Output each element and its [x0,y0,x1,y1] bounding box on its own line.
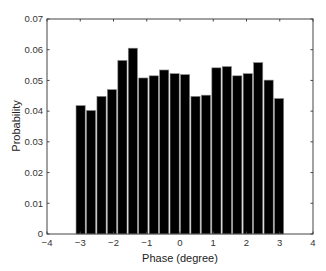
histogram-bar [139,78,148,234]
y-tick-label: 0.03 [25,136,44,147]
histogram-chart: −4−3−2−101234 00.010.020.030.040.050.060… [0,0,326,271]
x-tick-label: −4 [42,237,53,248]
y-tick-label: 0.07 [25,13,44,24]
histogram-bar [149,76,158,234]
histogram-bars [76,48,284,234]
histogram-bar [181,75,190,234]
y-tick-label: 0.05 [25,75,44,86]
histogram-bar [212,68,221,234]
histogram-bar [86,111,95,234]
histogram-bar [191,96,200,234]
y-axis-title: Probability [10,100,22,152]
histogram-bar [170,74,179,234]
histogram-bar [222,67,231,234]
histogram-bar [201,95,210,234]
y-tick-label: 0.04 [25,105,44,116]
histogram-bar [264,80,273,234]
y-tick-label: 0 [38,228,43,239]
x-tick-label: 1 [211,237,216,248]
x-tick-label: −1 [141,237,152,248]
x-tick-label: 4 [310,237,315,248]
x-tick-label: 2 [244,237,249,248]
x-axis-title: Phase (degree) [142,252,218,264]
y-tick-label: 0.06 [25,44,44,55]
histogram-bar [118,60,127,234]
histogram-bar [243,74,252,234]
y-tick-label: 0.01 [25,198,44,209]
y-tick-label: 0.02 [25,167,44,178]
histogram-bar [275,99,284,234]
histogram-bar [128,48,137,234]
histogram-bar [233,76,242,234]
histogram-bar [160,70,169,234]
histogram-bar [254,63,263,234]
histogram-bar [76,106,85,234]
x-tick-label: −2 [108,237,119,248]
x-tick-label: 3 [277,237,282,248]
x-tick-label: 0 [177,237,182,248]
histogram-bar [97,96,106,234]
x-tick-label: −3 [75,237,86,248]
histogram-bar [107,90,116,234]
